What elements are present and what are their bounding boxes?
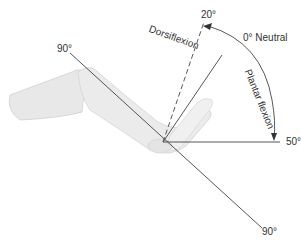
ankle-range-of-motion-diagram: 90° 20° 0° Neutral 50° 90° Dorsiflexion … xyxy=(0,0,301,243)
plantar-50-label: 50° xyxy=(286,137,301,147)
heel-shape xyxy=(148,139,172,153)
leg-illustration xyxy=(9,67,212,153)
lower-90-label: 90° xyxy=(262,227,277,237)
thigh-shape xyxy=(9,70,86,120)
leg-axis-line xyxy=(70,53,262,228)
dorsi-20-label: 20° xyxy=(201,10,216,20)
arrow-head-plantar-icon xyxy=(271,133,277,141)
arrow-head-dorsiflexion-icon xyxy=(203,23,212,30)
upper-90-label: 90° xyxy=(57,44,72,54)
neutral-label: 0° Neutral xyxy=(243,33,288,43)
